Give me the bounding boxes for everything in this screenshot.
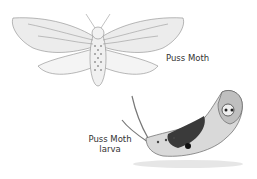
larva-label-line2: larva [88,144,132,154]
illustration-canvas: Puss Moth Puss Moth larva [0,0,257,179]
puss-moth-label: Puss Moth [166,53,209,63]
larva-label-line1: Puss Moth [88,134,132,144]
puss-moth-illustration [8,6,188,92]
puss-moth-larva-label: Puss Moth larva [88,134,132,154]
puss-moth-larva-illustration [118,86,253,172]
